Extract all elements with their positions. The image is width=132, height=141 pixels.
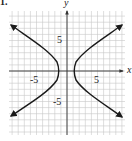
axes <box>9 11 123 135</box>
hyperbola-graph <box>0 0 132 141</box>
x-tick-label-5: 5 <box>94 75 99 85</box>
y-axis-label: y <box>64 0 68 8</box>
problem-number: 1. <box>0 0 8 7</box>
y-tick-label-5: 5 <box>57 35 62 45</box>
x-tick-label-neg5: -5 <box>30 75 38 85</box>
y-tick-label-neg5: -5 <box>53 97 61 107</box>
x-axis-label: x <box>127 65 131 75</box>
